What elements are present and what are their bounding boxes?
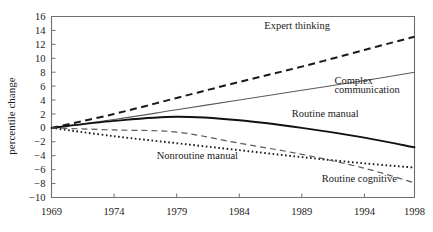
- y-tick-label: 0: [40, 122, 45, 133]
- y-tick-label: 16: [35, 11, 46, 22]
- x-tick-label: 1994: [354, 206, 376, 217]
- y-tick-label: 12: [35, 39, 46, 50]
- series-label-nonroutine-manual: Nonroutine manual: [157, 150, 238, 161]
- series-label-routine-manual: Routine manual: [292, 108, 359, 119]
- y-tick-label: −8: [34, 178, 45, 189]
- y-tick-label: 4: [40, 95, 46, 106]
- series-labels: Expert thinkingComplexcommunicationRouti…: [157, 20, 401, 184]
- y-tick-label: −10: [29, 192, 45, 203]
- x-tick-label: 1998: [404, 206, 425, 217]
- y-tick-label: 14: [35, 25, 46, 36]
- x-tick-label: 1989: [291, 206, 312, 217]
- y-tick-label: −2: [34, 136, 45, 147]
- y-tick-label: −4: [34, 150, 46, 161]
- x-tick-label: 1974: [104, 206, 126, 217]
- y-tick-label: 2: [40, 109, 45, 120]
- y-tick-label: 10: [35, 53, 46, 64]
- chart-figure: percentile change −10−8−6−4−202468101214…: [0, 0, 433, 232]
- series-label-communication: communication: [334, 84, 400, 95]
- series-label-routine-cognitive: Routine cognitive: [322, 173, 397, 184]
- y-tick-label: −6: [34, 164, 45, 175]
- x-tick-label: 1969: [41, 206, 62, 217]
- axes: [52, 17, 415, 198]
- series-line-nonroutine-manual: [52, 128, 415, 168]
- line-chart-plot: −10−8−6−4−20246810121416 196919741979198…: [0, 0, 433, 232]
- x-tick-label: 1984: [229, 206, 251, 217]
- series-line-routine-manual: [52, 117, 415, 148]
- y-tick-label: 6: [40, 81, 45, 92]
- series-label-expert-thinking: Expert thinking: [264, 20, 330, 31]
- axis-frame-top-right: [52, 17, 415, 198]
- y-tick-label: 8: [40, 67, 45, 78]
- axis-frame-left-bottom: [52, 17, 415, 198]
- x-tick-label: 1979: [166, 206, 187, 217]
